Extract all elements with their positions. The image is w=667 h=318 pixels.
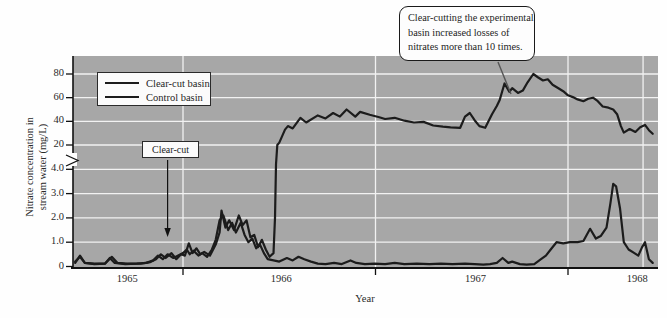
callout-bubble: Clear-cutting the experimental basin inc… bbox=[399, 6, 535, 61]
legend: Clear-cut basin Control basin bbox=[97, 72, 211, 106]
callout-line1: Clear-cutting the experimental bbox=[408, 11, 527, 26]
control-basin-line-swatch-icon bbox=[105, 96, 139, 99]
x-tick-label-1966: 1966 bbox=[259, 273, 303, 284]
down-arrow-head-icon bbox=[164, 228, 170, 237]
x-tick-label-1968: 1968 bbox=[615, 273, 659, 284]
callout-line3: nitrates more than 10 times. bbox=[408, 40, 527, 55]
callout-connector-line bbox=[498, 62, 511, 94]
y-axis-title-line1: Nitrate concentration in bbox=[23, 67, 36, 267]
x-tick-label-1967: 1967 bbox=[454, 273, 498, 284]
nitrate-concentration-chart: Nitrate concentration in stream water (m… bbox=[0, 0, 667, 318]
y-tick-label-20: 20 bbox=[38, 138, 64, 149]
y-tick-label-60: 60 bbox=[38, 91, 64, 102]
y-tick-label-3.0: 3.0 bbox=[38, 187, 64, 198]
callout-line2: basin increased losses of bbox=[408, 26, 527, 41]
x-axis-title: Year bbox=[245, 293, 485, 304]
y-tick-label-0: 0 bbox=[38, 260, 64, 271]
clear-cut-annotation-box: Clear-cut bbox=[142, 141, 199, 158]
chart-canvas bbox=[0, 0, 667, 318]
y-tick-label-40: 40 bbox=[38, 114, 64, 125]
y-tick-label-2.0: 2.0 bbox=[38, 211, 64, 222]
legend-entry-control-basin: Control basin bbox=[105, 90, 210, 104]
control-basin-line bbox=[75, 184, 653, 265]
x-tick-label-1965: 1965 bbox=[105, 273, 149, 284]
legend-label-clear-cut-basin: Clear-cut basin bbox=[146, 78, 210, 89]
y-tick-label-4.0: 4.0 bbox=[38, 162, 64, 173]
legend-entry-clear-cut-basin: Clear-cut basin bbox=[105, 76, 210, 90]
clear-cut-basin-line-swatch-icon bbox=[105, 82, 139, 85]
legend-label-control-basin: Control basin bbox=[146, 92, 203, 103]
y-tick-label-80: 80 bbox=[38, 67, 64, 78]
y-tick-label-1.0: 1.0 bbox=[38, 235, 64, 246]
